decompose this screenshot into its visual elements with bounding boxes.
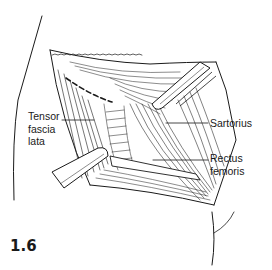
thigh-outline-left (14, 16, 43, 200)
thigh-outline-right (212, 212, 214, 265)
label-sartorius: Sartorius (210, 117, 252, 130)
label-line: lata (28, 135, 60, 148)
label-line: Rectus (210, 152, 244, 165)
retractor-upper-right (152, 62, 216, 109)
label-tensor-fascia-lata: Tensor fascia lata (28, 110, 60, 148)
label-line: Tensor (28, 110, 60, 123)
label-line: fascia (28, 123, 60, 136)
figure-number: 1.6 (10, 237, 37, 255)
anatomical-illustration: Tensor fascia lata Sartorius Rectus femo… (0, 0, 272, 270)
label-line: femoris (210, 165, 244, 178)
label-rectus-femoris: Rectus femoris (210, 152, 244, 177)
